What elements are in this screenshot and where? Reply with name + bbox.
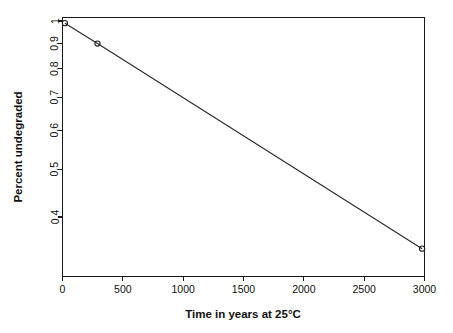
data-series-line — [65, 23, 422, 248]
x-tick-label: 500 — [114, 283, 132, 295]
y-axis-title: Percent undegraded — [12, 91, 24, 202]
x-axis-tick-labels: 050010001500200025003000 — [60, 283, 437, 295]
x-tick-label: 0 — [60, 283, 66, 295]
y-axis-tick-labels: 10.90.80.70.60.50.4 — [49, 18, 61, 224]
y-tick-label: 1 — [49, 18, 61, 24]
y-tick-label: 0.4 — [49, 210, 61, 225]
y-tick-label: 0.9 — [49, 36, 61, 51]
x-tick-label: 3000 — [413, 283, 437, 295]
x-tick-label: 1500 — [232, 283, 256, 295]
x-axis-ticks — [63, 277, 425, 282]
y-tick-label: 0.6 — [49, 123, 61, 138]
plot-canvas: 10.90.80.70.60.50.4 05001000150020002500… — [0, 0, 453, 333]
x-tick-label: 2500 — [352, 283, 376, 295]
y-tick-label: 0.8 — [49, 61, 61, 76]
y-tick-label: 0.5 — [49, 162, 61, 177]
y-tick-label: 0.7 — [49, 90, 61, 105]
x-axis-title: Time in years at 25°C — [185, 308, 301, 320]
x-tick-label: 2000 — [292, 283, 316, 295]
x-tick-label: 1000 — [171, 283, 195, 295]
chart-figure: 10.90.80.70.60.50.4 05001000150020002500… — [0, 0, 453, 333]
